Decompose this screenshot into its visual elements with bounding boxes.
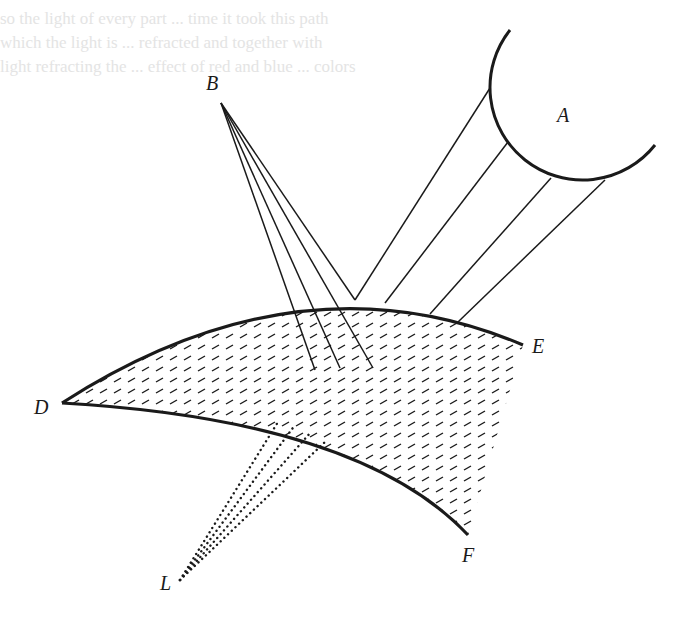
label-B: B [206,72,218,94]
refracting-medium [62,309,523,535]
rays-to-L [180,422,326,580]
label-L: L [159,572,171,594]
source-A-arc [490,30,655,180]
label-F: F [461,544,475,566]
label-D: D [33,396,49,418]
label-A: A [555,104,570,126]
label-E: E [531,335,544,357]
optics-figure: A B D E F L [0,0,694,628]
